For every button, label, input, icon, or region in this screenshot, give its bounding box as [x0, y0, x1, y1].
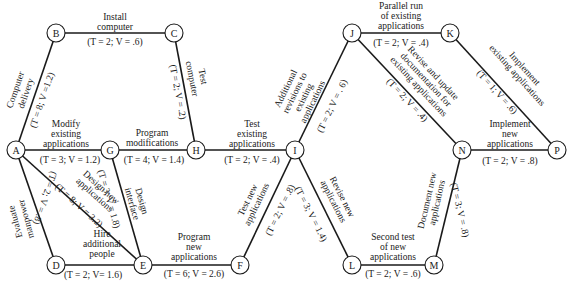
label-a-g-activity-3: applications: [43, 139, 89, 149]
svg-text:G: G: [106, 145, 113, 156]
node-m: M: [425, 256, 443, 274]
label-g-e-activity: Design interface: [123, 184, 151, 221]
label-h-i-activity-1: Test: [244, 119, 260, 129]
label-m-n-params: (T = 3; V = .8): [448, 182, 471, 239]
label-g-h-activity-2: modifications: [126, 138, 179, 148]
node-h: H: [187, 141, 205, 159]
svg-text:K: K: [446, 28, 454, 39]
label-b-c-params: (T = 2; V = .6): [87, 37, 143, 48]
svg-text:P: P: [554, 145, 560, 156]
node-n: N: [453, 141, 471, 159]
label-d-e-activity-3: people: [89, 249, 114, 259]
nodes: A B C D E F G H: [7, 24, 566, 274]
label-e-f-activity-3: applications: [171, 252, 217, 262]
svg-text:H: H: [192, 145, 199, 156]
label-m-n-activity: Document new applications: [416, 171, 449, 232]
label-n-p-params: (T = 2; V = .8): [482, 156, 538, 167]
edge-labels: Computer delivery (T = 8; V =1.2) Instal…: [4, 1, 554, 281]
node-d: D: [47, 256, 65, 274]
label-g-h-activity-1: Program: [136, 128, 169, 138]
label-l-m-activity-2: of new: [380, 242, 406, 252]
label-n-p-activity-3: applications: [487, 139, 533, 149]
label-j-k-activity-3: applications: [378, 21, 424, 31]
label-i-l-activity: Revise new applications: [318, 174, 357, 224]
svg-text:(T = 3; V = .8): (T = 3; V = .8): [448, 182, 471, 239]
label-h-i-activity-3: applications: [229, 139, 275, 149]
svg-text:(T = 2; V = .8): (T = 2; V = .8): [30, 170, 59, 226]
label-f-i-activity: Test new applications: [233, 177, 271, 227]
svg-text:B: B: [53, 28, 60, 39]
svg-text:I: I: [293, 145, 296, 156]
label-l-m-activity-1: Second test: [371, 232, 415, 242]
label-a-g-activity-1: Modify: [52, 119, 81, 129]
label-a-d-params: (T = 2; V = .8): [30, 170, 59, 226]
label-h-i-params: (T = 2; V = .4): [224, 155, 280, 166]
node-p: P: [548, 141, 566, 159]
svg-text:(T = 3; V = 1.4): (T = 3; V = 1.4): [292, 185, 329, 244]
label-l-m-params: (T = 2; V = .6): [365, 269, 421, 280]
label-n-p-activity-2: new: [502, 129, 518, 139]
svg-text:F: F: [237, 260, 243, 271]
node-j: J: [343, 24, 361, 42]
label-e-f-activity-1: Program: [178, 232, 211, 242]
svg-text:M: M: [430, 260, 439, 271]
label-e-f-params: (T = 6; V = 2.6): [164, 269, 224, 280]
node-i: I: [286, 141, 304, 159]
svg-text:L: L: [349, 260, 355, 271]
label-i-l-params: (T = 3; V = 1.4): [292, 185, 329, 244]
node-g: G: [101, 141, 119, 159]
node-l: L: [343, 256, 361, 274]
label-d-e-params: (T = 2; V= 1.6): [64, 270, 122, 281]
label-a-g-activity-2: existing: [51, 129, 81, 139]
svg-text:E: E: [140, 260, 146, 271]
label-a-d-activity: Evaluate manpower: [5, 198, 36, 243]
svg-text:A: A: [12, 145, 20, 156]
pert-network-diagram: Computer delivery (T = 8; V =1.2) Instal…: [0, 0, 574, 286]
node-f: F: [231, 256, 249, 274]
label-j-n-activity: Revise and update documentation for exis…: [388, 41, 464, 119]
node-k: K: [441, 24, 459, 42]
label-j-k-activity-2: of existing: [381, 11, 422, 21]
label-e-f-activity-2: new: [186, 242, 202, 252]
svg-text:D: D: [52, 260, 59, 271]
label-l-m-activity-3: applications: [370, 252, 416, 262]
svg-text:C: C: [171, 28, 178, 39]
label-d-e-activity-2: additional: [83, 239, 121, 249]
node-a: A: [7, 141, 25, 159]
label-d-e-activity-1: Hire: [94, 229, 111, 239]
label-i-j-activity: Additional revisions to existing applica…: [271, 65, 327, 124]
label-b-c-activity-2: computer: [97, 22, 134, 32]
label-h-i-activity-2: existing: [237, 129, 267, 139]
label-a-b-activity: Computer delivery: [4, 69, 36, 113]
svg-text:N: N: [458, 145, 465, 156]
node-b: B: [47, 24, 65, 42]
label-g-h-params: (T = 4; V = 1.4): [124, 155, 184, 166]
svg-text:J: J: [350, 28, 354, 39]
label-b-c-activity-1: Install: [103, 12, 127, 22]
node-e: E: [134, 256, 152, 274]
svg-text:computer: computer: [184, 60, 201, 98]
label-c-h-activity: Test computer: [184, 58, 212, 98]
label-n-p-activity-1: Implement: [489, 119, 531, 129]
label-a-g-params: (T = 3; V = 1.2): [40, 155, 100, 166]
node-c: C: [165, 24, 183, 42]
label-j-k-params: (T = 2; V = .4): [373, 38, 429, 49]
label-j-k-activity-1: Parallel run: [379, 1, 423, 11]
